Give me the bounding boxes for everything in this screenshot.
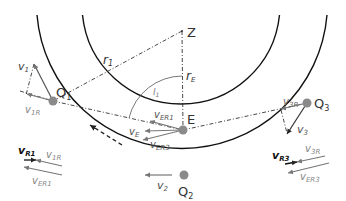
label-Q2: Q2 [178, 184, 193, 201]
legend-label-vER1: vER1 [32, 175, 52, 188]
label-Q1: Q1 [56, 85, 71, 102]
orbital-velocity-diagram: Z E Q1 Q2 Q3 r1 rE l1 v1 v1R vER1 vE vER… [0, 0, 346, 201]
label-vE: vE [129, 126, 140, 139]
legend-label-vR3: vR3 [272, 149, 290, 163]
label-vER3: vER3 [150, 139, 170, 152]
label-vER1: vER1 [154, 109, 174, 122]
motion-direction-arrow [90, 125, 122, 145]
label-r1: r1 [103, 53, 113, 68]
legend-label-v1R: v1R [46, 149, 61, 162]
label-v3R: v3R [283, 96, 298, 109]
label-Q3: Q3 [314, 96, 329, 113]
label-rE: rE [186, 69, 196, 84]
v3-parallelogram-side [281, 110, 287, 133]
label-angle-l1: l1 [153, 87, 159, 98]
label-v1: v1 [18, 60, 29, 74]
legend-vector-vER1 [24, 167, 62, 175]
label-E: E [187, 112, 195, 127]
radius-r1-line [53, 31, 182, 101]
label-Z: Z [187, 25, 196, 40]
point-Z [181, 30, 183, 32]
point-Q2 [180, 171, 189, 180]
legend-label-vER3: vER3 [300, 171, 320, 184]
label-v2: v2 [157, 179, 169, 193]
legend-label-vR1: vR1 [18, 144, 36, 158]
label-v3: v3 [297, 123, 308, 137]
point-Q3 [303, 99, 312, 108]
legend-vector-v3R [297, 156, 325, 162]
vector-v1 [34, 64, 53, 101]
legend-label-v3R: v3R [305, 143, 320, 156]
vector-vER1 [150, 121, 183, 130]
legend-vector-vER3 [288, 163, 329, 173]
label-v1R: v1R [25, 104, 40, 117]
vector-vER3 [143, 130, 183, 140]
radius-rE-line [182, 31, 183, 130]
